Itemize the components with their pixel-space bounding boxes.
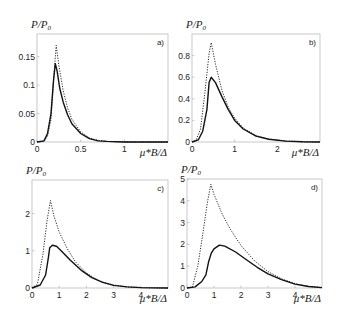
- y-tick-label: 0.6: [178, 72, 190, 82]
- y-axis-label: P/P0: [30, 18, 52, 32]
- x-axis-label: μ*B/Δ: [139, 292, 167, 304]
- dotted-curve: [32, 201, 168, 289]
- figure: 00.050.10.1500.51P/P0μ*B/Δa) 00.20.40.60…: [0, 0, 348, 322]
- y-tick-label: 1: [180, 261, 185, 271]
- y-tick-label: 0.15: [18, 52, 35, 62]
- panel-label: d): [311, 183, 318, 192]
- x-tick-label: 1: [232, 144, 237, 154]
- y-tick-label: 0.1: [23, 80, 35, 90]
- x-axis-label: μ*B/Δ: [139, 146, 167, 158]
- panel-a: 00.050.10.1500.51P/P0μ*B/Δa): [18, 18, 168, 158]
- x-tick-label: 1: [122, 144, 127, 154]
- x-axis-label: μ*B/Δ: [293, 292, 321, 304]
- y-tick-label: 4: [180, 196, 185, 206]
- x-tick-label: 1: [212, 290, 217, 300]
- y-tick-label: 0.8: [178, 51, 190, 61]
- x-tick-label: 0: [30, 290, 35, 300]
- x-tick-label: 0.5: [75, 144, 87, 154]
- panel-label: c): [157, 184, 164, 193]
- x-tick-label: 0: [35, 144, 40, 154]
- solid-curve: [187, 245, 322, 288]
- y-tick-label: 2: [180, 239, 185, 249]
- x-tick-label: 0: [185, 290, 190, 300]
- panel-label: a): [157, 38, 164, 47]
- panel-d: 01234501234P/P0μ*B/Δd): [180, 163, 322, 304]
- y-tick-label: 0.05: [18, 109, 35, 119]
- axes-box: [32, 180, 168, 288]
- y-axis-label: P/P0: [25, 164, 47, 178]
- x-tick-label: 2: [275, 144, 280, 154]
- x-tick-label: 3: [111, 290, 116, 300]
- y-tick-label: 3: [180, 218, 185, 228]
- y-tick-label: 0.2: [178, 115, 190, 125]
- axes-box: [192, 34, 320, 142]
- x-tick-label: 2: [84, 290, 89, 300]
- panel-c: 01201234P/P0μ*B/Δc): [25, 164, 168, 304]
- y-tick-label: 0.4: [178, 94, 190, 104]
- y-tick-label: 1: [25, 246, 30, 256]
- y-axis-label: P/P0: [185, 18, 207, 32]
- dotted-curve: [187, 184, 322, 288]
- x-tick-label: 2: [239, 290, 244, 300]
- y-tick-label: 2: [25, 209, 30, 219]
- y-axis-label: P/P0: [180, 163, 202, 177]
- x-tick-label: 0: [190, 144, 195, 154]
- panel-label: b): [309, 38, 316, 47]
- x-tick-label: 3: [266, 290, 271, 300]
- solid-curve: [37, 64, 168, 142]
- panel-b: 00.20.40.60.8012P/P0μ*B/Δb): [178, 18, 320, 158]
- x-tick-label: 1: [57, 290, 62, 300]
- x-axis-label: μ*B/Δ: [291, 146, 319, 158]
- dotted-curve: [192, 43, 320, 142]
- solid-curve: [192, 77, 320, 142]
- y-tick-label: 5: [180, 174, 185, 184]
- dotted-curve: [37, 45, 168, 142]
